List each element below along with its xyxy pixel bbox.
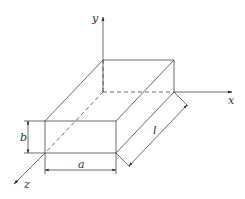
x-axis-label: x xyxy=(228,94,235,107)
right-face xyxy=(116,60,174,153)
dimension-a-label: a xyxy=(78,158,85,171)
y-axis-label: y xyxy=(91,12,99,25)
z-axis-label: z xyxy=(23,178,30,191)
dimension-l-label: l xyxy=(153,124,157,137)
hidden-edge xyxy=(45,92,103,153)
box-diagram: y x z b a l xyxy=(0,0,245,199)
front-face xyxy=(45,121,116,153)
dimension-b-label: b xyxy=(20,131,27,144)
dimension-l xyxy=(129,105,187,166)
